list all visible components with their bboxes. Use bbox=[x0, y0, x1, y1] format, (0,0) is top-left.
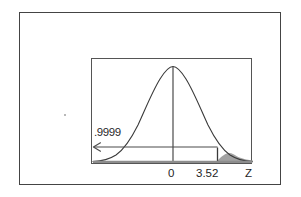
axis-name-label-z: Z bbox=[245, 167, 252, 179]
axis-tick-label-mean: 0 bbox=[168, 167, 174, 179]
figure-outer-frame: .9999 0 3.52 Z bbox=[19, 12, 281, 185]
normal-curve-svg bbox=[92, 59, 253, 165]
chart-plot-area bbox=[91, 58, 252, 164]
cumulative-probability-label: .9999 bbox=[94, 126, 121, 138]
axis-tick-label-z-value: 3.52 bbox=[196, 167, 218, 179]
scan-artifact-speck bbox=[64, 114, 66, 116]
figure-root: .9999 0 3.52 Z bbox=[0, 0, 301, 197]
